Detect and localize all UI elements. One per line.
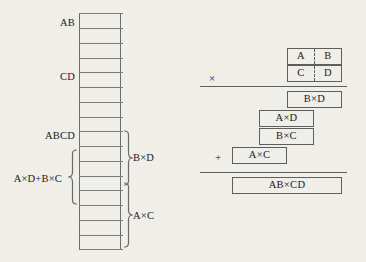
ladder-rung <box>79 146 123 147</box>
operand-top-box: A B <box>287 48 342 65</box>
brace-axd-plus-bxc <box>69 150 77 204</box>
ladder-rung <box>79 102 123 103</box>
lower-rule <box>200 172 347 173</box>
partial-product-bxc: B×C <box>259 128 314 145</box>
brace-axc <box>125 183 133 247</box>
operand-bottom-right: D <box>315 66 341 81</box>
ladder-rung <box>79 43 123 44</box>
partial-product-axc: A×C <box>232 147 287 164</box>
ladder-rung <box>79 131 123 132</box>
operand-bottom-left: C <box>288 66 315 81</box>
result-box: AB×CD <box>232 177 342 194</box>
operand-bottom-box: C D <box>287 65 342 82</box>
ladder-rung <box>79 58 123 59</box>
ladder-label-bxd: B×D <box>133 153 154 164</box>
bit-position-ladder <box>79 13 121 250</box>
ladder-label-abcd: ABCD <box>10 131 75 142</box>
brace-bxd <box>125 131 133 185</box>
ladder-label-cd: CD <box>18 72 75 83</box>
ladder-rung <box>79 235 123 236</box>
ladder-rung <box>79 13 123 14</box>
ladder-rung <box>79 87 123 88</box>
multiply-sign: × <box>209 73 215 84</box>
ladder-label-ad-plus-bc: A×D+B×C <box>0 174 62 185</box>
ladder-label-ab: AB <box>18 18 75 29</box>
partial-product-bxd: B×D <box>287 91 342 108</box>
ladder-rung <box>79 205 123 206</box>
operand-top-right: B <box>315 49 341 64</box>
figure-canvas: AB CD ABCD A×D+B×C B×D A×C A B C D × B×D <box>0 0 366 262</box>
plus-sign: + <box>215 152 221 163</box>
upper-rule <box>200 86 347 87</box>
ladder-rung <box>79 161 123 162</box>
ladder-rung <box>79 176 123 177</box>
ladder-rung <box>79 28 123 29</box>
ladder-rung <box>79 72 123 73</box>
ladder-rung <box>79 117 123 118</box>
partial-product-axd: A×D <box>259 110 314 127</box>
ladder-rung <box>79 220 123 221</box>
ladder-label-axc: A×C <box>133 211 154 222</box>
ladder-rung <box>79 190 123 191</box>
operand-top-left: A <box>288 49 315 64</box>
ladder-rung <box>79 249 123 250</box>
